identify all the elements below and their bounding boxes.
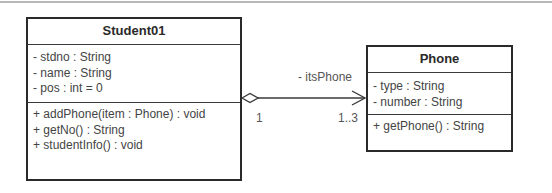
role-name-label: - itsPhone	[298, 70, 352, 84]
aggregation-diamond-icon	[242, 94, 258, 103]
target-multiplicity-label: 1..3	[338, 111, 358, 125]
source-multiplicity-label: 1	[256, 111, 263, 125]
aggregation-association[interactable]	[0, 0, 552, 193]
